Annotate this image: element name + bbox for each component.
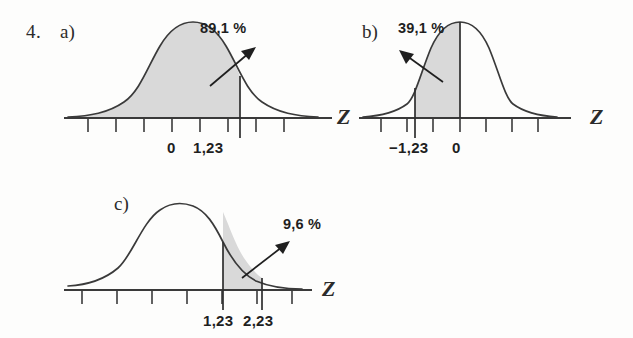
normal-curve-c <box>68 204 302 289</box>
axis-ticks-c <box>82 290 292 304</box>
tick-label-c-1: 2,23 <box>243 312 273 329</box>
tick-label-b-0: −1,23 <box>389 139 428 156</box>
percent-label-c: 9,6 % <box>283 216 321 232</box>
tick-label-a-0: 0 <box>167 139 176 156</box>
tick-label-c-0: 1,23 <box>203 312 233 329</box>
axis-name-b: Z <box>590 104 603 130</box>
axis-name-a: Z <box>337 104 350 130</box>
percent-label-a: 89,1 % <box>200 20 246 36</box>
tick-label-b-1: 0 <box>452 139 461 156</box>
question-number: 4. <box>26 21 41 43</box>
shaded-area-a <box>68 22 240 117</box>
figure-page: 4. a) 89,1 % 0 1,23 Z b) <box>0 0 633 338</box>
axis-name-c: Z <box>322 276 335 302</box>
percent-label-b: 39,1 % <box>398 20 444 36</box>
chart-c <box>60 190 360 310</box>
chart-b <box>355 10 615 140</box>
annotation-arrow-c <box>242 241 290 278</box>
axis-ticks-b <box>381 118 538 132</box>
tick-label-a-1: 1,23 <box>193 139 223 156</box>
axis-ticks-a <box>88 118 284 132</box>
